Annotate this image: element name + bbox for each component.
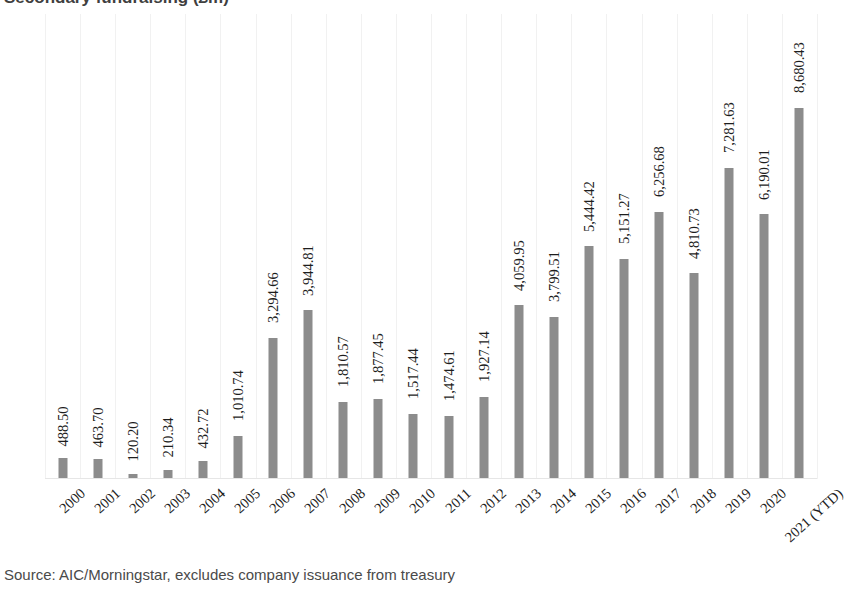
bar-value-label: 5,151.27 (615, 193, 632, 244)
bar[interactable] (269, 338, 278, 479)
x-tick-label: 2013 (512, 485, 545, 517)
bar-group[interactable]: 1,877.45 (361, 14, 396, 479)
bar-group[interactable]: 3,294.66 (256, 14, 291, 479)
bar[interactable] (760, 214, 769, 479)
x-tick-label: 2006 (266, 485, 299, 517)
bar[interactable] (655, 212, 664, 479)
bar-group[interactable]: 5,444.42 (571, 14, 606, 479)
chart-plot-area: 488.50463.70120.20210.34432.721,010.743,… (45, 14, 817, 479)
bar-group[interactable]: 7,281.63 (712, 14, 747, 479)
bar-value-label: 7,281.63 (721, 102, 738, 153)
bar-group[interactable]: 4,810.73 (677, 14, 712, 479)
bar[interactable] (479, 397, 488, 479)
bar-group[interactable]: 4,059.95 (501, 14, 536, 479)
bar-group[interactable]: 1,010.74 (220, 14, 255, 479)
x-tick-label: 2015 (582, 485, 615, 517)
bar[interactable] (725, 168, 734, 479)
bar-group[interactable]: 3,799.51 (536, 14, 571, 479)
x-tick-label: 2011 (442, 485, 475, 517)
bar[interactable] (409, 414, 418, 479)
bar[interactable] (233, 436, 242, 479)
x-tick-label: 2005 (231, 485, 264, 517)
bar-group[interactable]: 1,810.57 (326, 14, 361, 479)
bar-value-label: 5,444.42 (580, 181, 597, 232)
x-tick-label: 2001 (91, 485, 124, 517)
page-title: Secondary fundraising (£m) (4, 0, 229, 8)
bar-value-label: 1,877.45 (370, 333, 387, 384)
bar-value-label: 4,059.95 (510, 240, 527, 291)
bar-group[interactable]: 210.34 (150, 14, 185, 479)
bar-value-label: 210.34 (159, 418, 176, 458)
x-tick-label: 2004 (196, 485, 229, 517)
bar[interactable] (549, 317, 558, 479)
bar-value-label: 6,256.68 (651, 146, 668, 197)
bar-value-label: 1,474.61 (440, 350, 457, 401)
bar-value-label: 1,810.57 (335, 336, 352, 387)
x-tick-label: 2014 (547, 485, 580, 517)
bar-value-label: 432.72 (194, 408, 211, 448)
bar-group[interactable]: 120.20 (115, 14, 150, 479)
bar-value-label: 3,799.51 (545, 251, 562, 302)
bar-value-label: 3,944.81 (300, 245, 317, 296)
bar[interactable] (690, 273, 699, 479)
bar-value-label: 8,680.43 (791, 42, 808, 93)
bar-value-label: 488.50 (54, 406, 71, 446)
x-tick-label: 2000 (55, 485, 88, 517)
x-axis-labels: 2000200120022003200420052006200720082009… (45, 479, 817, 569)
bar[interactable] (198, 461, 207, 479)
x-tick-label: 2010 (406, 485, 439, 517)
x-tick-label: 2016 (617, 485, 650, 517)
bar-group[interactable]: 8,680.43 (782, 14, 817, 479)
bar-value-label: 463.70 (89, 407, 106, 447)
x-tick-label: 2021 (YTD) (782, 485, 847, 546)
source-note: Source: AIC/Morningstar, excludes compan… (4, 566, 455, 583)
bar-value-label: 4,810.73 (686, 208, 703, 259)
bar-group[interactable]: 488.50 (45, 14, 80, 479)
gridline (817, 14, 818, 479)
x-tick-label: 2009 (371, 485, 404, 517)
bar-value-label: 120.20 (124, 422, 141, 462)
x-tick-label: 2017 (652, 485, 685, 517)
bar[interactable] (58, 458, 67, 479)
bar-group[interactable]: 463.70 (80, 14, 115, 479)
bar[interactable] (795, 108, 804, 479)
bar[interactable] (619, 259, 628, 479)
bar[interactable] (584, 246, 593, 479)
bar[interactable] (514, 305, 523, 479)
bar-group[interactable]: 5,151.27 (606, 14, 641, 479)
bar-group[interactable]: 432.72 (185, 14, 220, 479)
bar[interactable] (374, 399, 383, 479)
x-tick-label: 2008 (336, 485, 369, 517)
bar[interactable] (93, 459, 102, 479)
bar-group[interactable]: 3,944.81 (291, 14, 326, 479)
bar-value-label: 1,927.14 (475, 331, 492, 382)
x-tick-label: 2019 (722, 485, 755, 517)
bar-value-label: 6,190.01 (756, 149, 773, 200)
x-tick-label: 2012 (477, 485, 510, 517)
bar[interactable] (304, 310, 313, 479)
bar-value-label: 3,294.66 (265, 273, 282, 324)
bar-group[interactable]: 1,517.44 (396, 14, 431, 479)
x-tick-label: 2018 (687, 485, 720, 517)
x-tick-label: 2002 (126, 485, 159, 517)
bar-value-label: 1,517.44 (405, 348, 422, 399)
bar-group[interactable]: 6,256.68 (642, 14, 677, 479)
bar[interactable] (339, 402, 348, 479)
bar[interactable] (444, 416, 453, 479)
bar-group[interactable]: 1,927.14 (466, 14, 501, 479)
bar-value-label: 1,010.74 (229, 370, 246, 421)
x-tick-label: 2007 (301, 485, 334, 517)
x-tick-label: 2020 (757, 485, 790, 517)
bar-group[interactable]: 1,474.61 (431, 14, 466, 479)
x-tick-label: 2003 (161, 485, 194, 517)
bar-group[interactable]: 6,190.01 (747, 14, 782, 479)
